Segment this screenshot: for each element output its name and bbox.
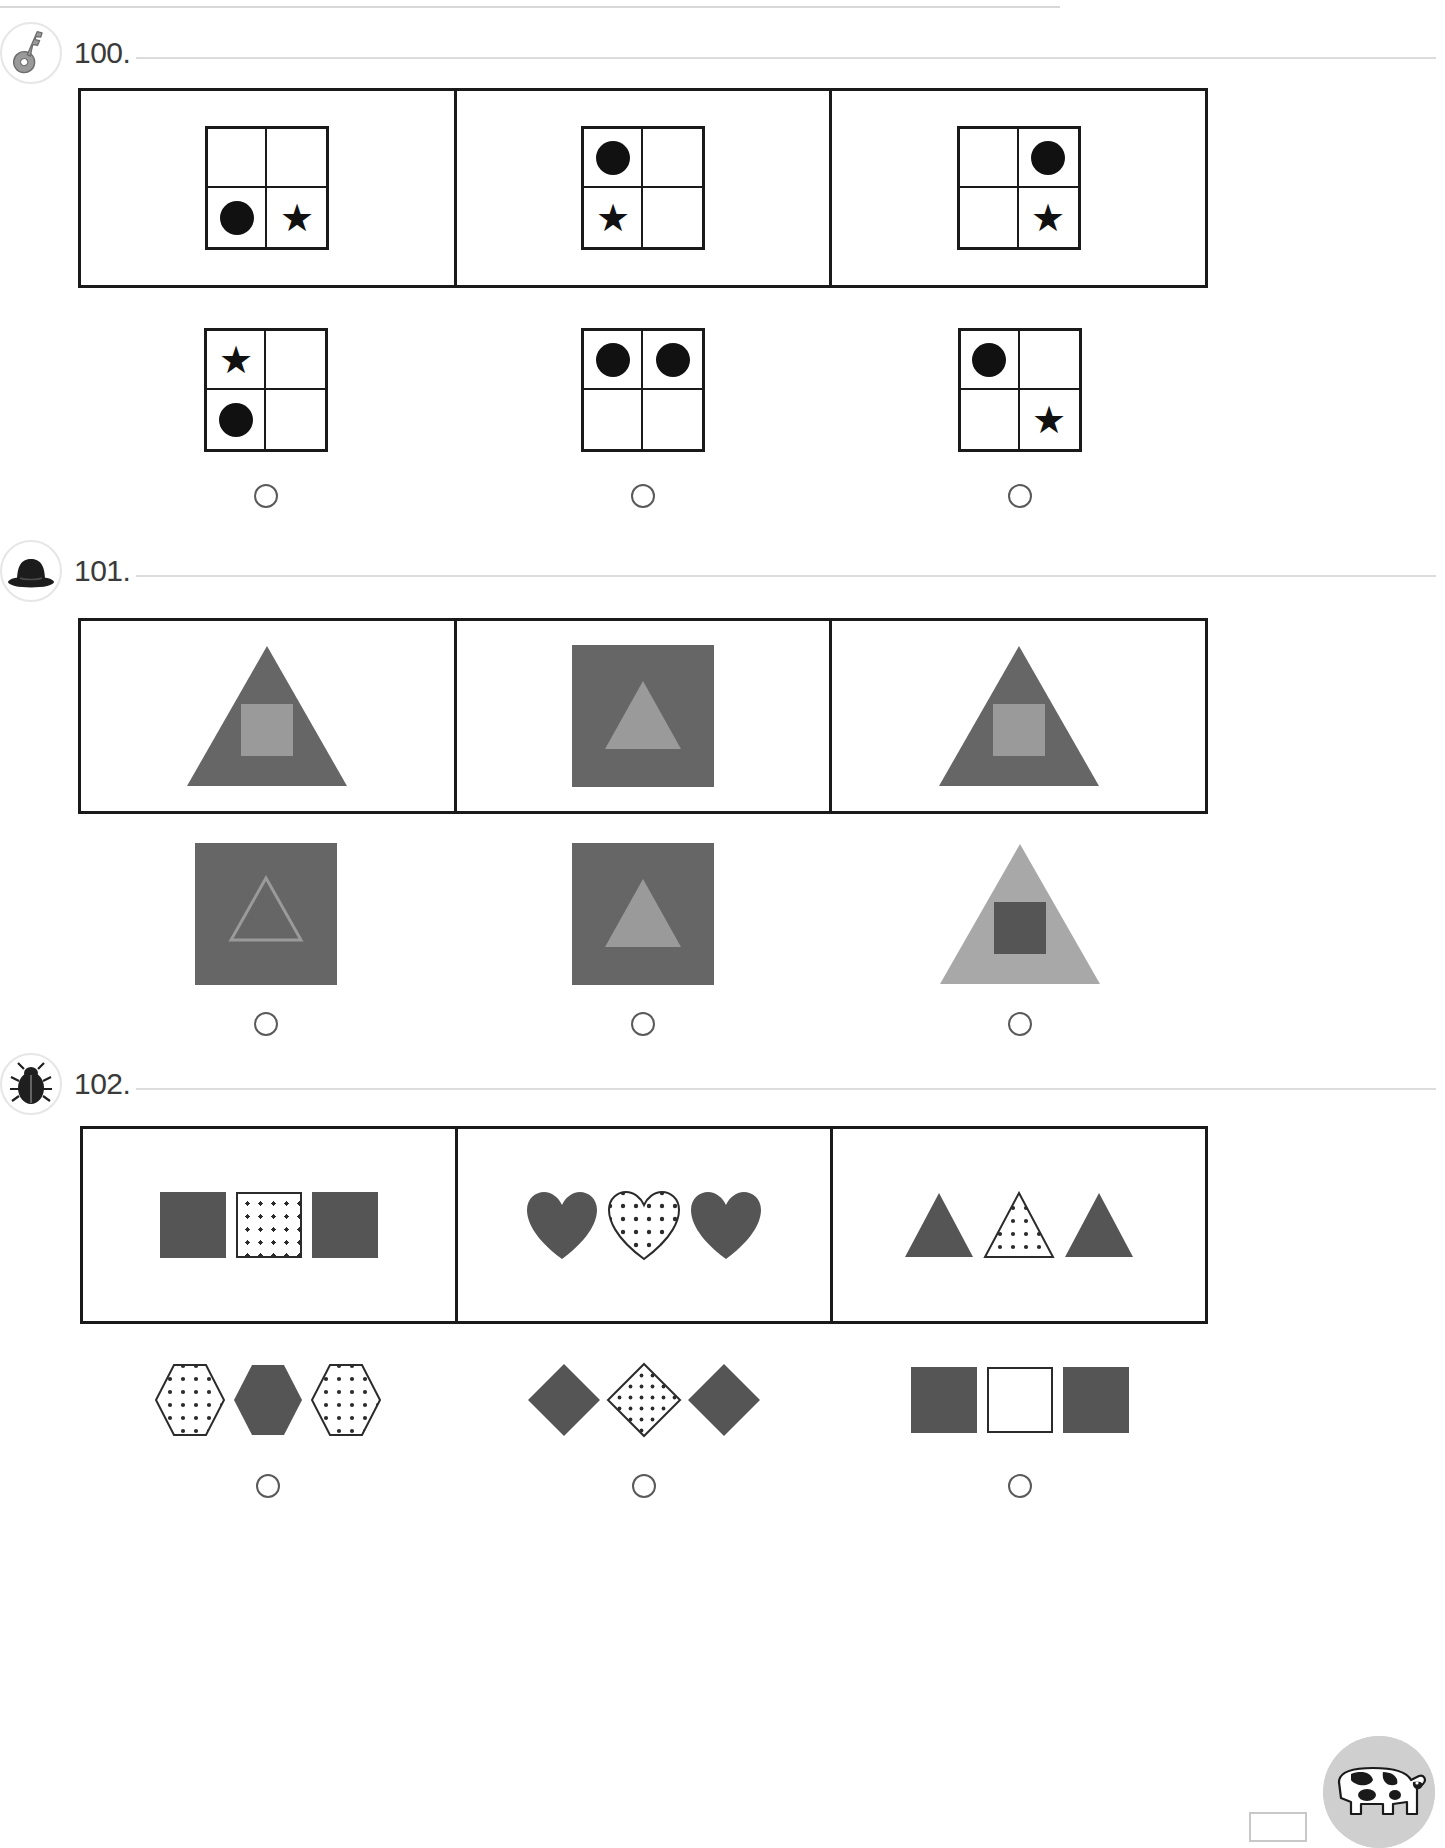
trip-a3 — [911, 1367, 1129, 1433]
answer-bubble[interactable] — [254, 1012, 278, 1036]
answer-figure — [195, 838, 337, 990]
answer-figure — [911, 1352, 1129, 1448]
cow-icon — [1323, 1736, 1435, 1848]
triangle-inner — [605, 681, 681, 749]
diamond-solid — [685, 1361, 763, 1439]
diamond-solid — [525, 1361, 603, 1439]
triangle-dotted — [983, 1191, 1055, 1259]
triangle-inner — [605, 879, 681, 947]
trip-q3 — [903, 1191, 1135, 1259]
cell-top-left — [961, 331, 1020, 390]
cell-top-left — [584, 129, 643, 188]
star-shape: ★ — [1031, 199, 1065, 237]
answer-bubble[interactable] — [1008, 484, 1032, 508]
cell-top-right — [1020, 331, 1079, 390]
triangle-solid — [903, 1191, 975, 1259]
answer-option[interactable] — [455, 320, 832, 508]
square-solid — [312, 1192, 378, 1258]
square-solid — [160, 1192, 226, 1258]
trip-a1 — [153, 1362, 383, 1438]
cell-top-left — [960, 129, 1019, 188]
heart-solid — [688, 1189, 764, 1261]
exercise-102-header: 102. — [0, 1053, 1445, 1115]
answer-option[interactable] — [80, 1352, 456, 1498]
exercise-102-question-frame — [80, 1126, 1208, 1324]
hexagon-solid — [231, 1362, 305, 1438]
question-cell — [829, 621, 1205, 811]
fig-a1 — [195, 843, 337, 985]
question-cell — [830, 1129, 1205, 1321]
triangle-outline-inner — [228, 875, 304, 947]
cell-bottom-right — [266, 390, 325, 449]
trip-a2 — [525, 1361, 763, 1439]
cell-top-left — [584, 331, 643, 390]
question-cell — [81, 621, 454, 811]
circle-shape — [1031, 141, 1065, 175]
cell-bottom-left — [961, 390, 1020, 449]
answer-bubble[interactable] — [631, 1012, 655, 1036]
grid-a2 — [581, 328, 705, 452]
hexagon-dotted — [309, 1362, 383, 1438]
question-cell — [455, 1129, 830, 1321]
exercise-100-header: 100. — [0, 22, 1445, 84]
answer-figure — [572, 838, 714, 990]
answer-bubble[interactable] — [632, 1474, 656, 1498]
heart-dotted — [606, 1189, 682, 1261]
answer-option[interactable] — [832, 1352, 1208, 1498]
cell-bottom-right: ★ — [1019, 188, 1078, 247]
answer-bubble[interactable] — [1008, 1012, 1032, 1036]
question-cell — [454, 621, 830, 811]
heart-solid — [524, 1189, 600, 1261]
square-inner — [994, 902, 1046, 954]
grid-q3: ★ — [957, 126, 1081, 250]
fig-q2 — [572, 645, 714, 787]
fig-q1 — [187, 646, 347, 786]
fig-a2 — [572, 843, 714, 985]
answer-bubble[interactable] — [254, 484, 278, 508]
answer-bubble[interactable] — [1008, 1474, 1032, 1498]
exercise-100-answer-row: ★ — [78, 320, 1208, 508]
exercise-101-answer-row — [78, 838, 1208, 1036]
answer-figure: ★ — [204, 320, 328, 460]
exercise-102-answer-row — [80, 1352, 1208, 1498]
cell-bottom-right: ★ — [1020, 390, 1079, 449]
cell-bottom-right — [643, 188, 702, 247]
cell-bottom-left — [207, 390, 266, 449]
fig-a3 — [940, 844, 1100, 984]
answer-option[interactable]: ★ — [831, 320, 1208, 508]
worksheet-page: 100. ★ ★ ★ — [0, 0, 1445, 1848]
grid-q2: ★ — [581, 126, 705, 250]
answer-bubble[interactable] — [256, 1474, 280, 1498]
cell-top-right — [643, 331, 702, 390]
answer-figure — [525, 1352, 763, 1448]
square-solid — [1063, 1367, 1129, 1433]
answer-option[interactable] — [78, 838, 455, 1036]
circle-shape — [219, 403, 253, 437]
exercise-101-rule — [136, 575, 1436, 577]
circle-shape — [596, 141, 630, 175]
hexagon-dotted — [153, 1362, 227, 1438]
cell-top-right — [266, 331, 325, 390]
answer-option[interactable] — [831, 838, 1208, 1036]
answer-option[interactable]: ★ — [78, 320, 455, 508]
circle-shape — [972, 343, 1006, 377]
answer-bubble[interactable] — [631, 484, 655, 508]
answer-figure — [581, 320, 705, 460]
answer-option[interactable] — [455, 838, 832, 1036]
cell-bottom-left — [960, 188, 1019, 247]
exercise-102-number: 102. — [74, 1067, 130, 1101]
triangle-solid — [1063, 1191, 1135, 1259]
answer-figure: ★ — [958, 320, 1082, 460]
grid-a3: ★ — [958, 328, 1082, 452]
answer-figure — [940, 838, 1100, 990]
exercise-100-number: 100. — [74, 36, 130, 70]
trip-q1 — [160, 1192, 378, 1258]
exercise-100-question-frame: ★ ★ ★ — [78, 88, 1208, 288]
key-icon — [0, 22, 62, 84]
star-shape: ★ — [596, 199, 630, 237]
circle-shape — [656, 343, 690, 377]
square-inner — [241, 704, 293, 756]
exercise-101-number: 101. — [74, 554, 130, 588]
cell-top-right — [643, 129, 702, 188]
answer-option[interactable] — [456, 1352, 832, 1498]
